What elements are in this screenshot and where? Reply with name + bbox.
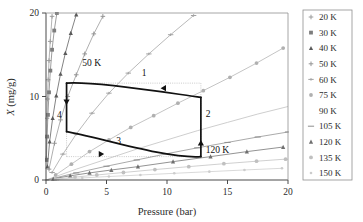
y-axis-tick-label: 0 <box>34 175 39 185</box>
legend-marker-circle-icon <box>309 93 313 97</box>
series-marker <box>281 167 284 170</box>
x-axis-label: Pressure (bar) <box>138 206 197 218</box>
series-marker <box>46 113 50 117</box>
legend-label: 150 K <box>319 168 342 178</box>
legend-label: 135 K <box>319 153 342 163</box>
cycle-step-label: 3 <box>116 136 121 146</box>
series-marker <box>152 114 156 118</box>
chart-root: 1234 0510152001020 50 K120 K 20 K30 K40 … <box>0 0 363 222</box>
legend-label: 105 K <box>319 121 342 131</box>
series-marker <box>255 159 259 163</box>
series-marker <box>47 90 51 94</box>
temperature-annotation: 120 K <box>206 145 230 155</box>
series-marker <box>243 169 246 172</box>
x-axis-tick-label: 10 <box>162 187 172 197</box>
series-marker <box>153 168 157 172</box>
series-marker <box>81 177 84 180</box>
series-marker <box>88 150 92 154</box>
temperature-annotation: 50 K <box>82 58 101 68</box>
series-marker <box>284 157 288 161</box>
series-marker <box>52 29 56 33</box>
legend-label: 60 K <box>319 75 337 85</box>
legend-marker-circle-icon <box>309 156 313 160</box>
series-marker <box>48 69 52 73</box>
legend-label: 40 K <box>319 43 337 53</box>
series-marker <box>129 125 133 129</box>
y-axis-units: (mg/g) <box>5 78 17 110</box>
x-axis-tick-label: 5 <box>104 187 109 197</box>
cycle-step-label: 4 <box>57 110 62 120</box>
x-axis-tick-label: 15 <box>223 187 233 197</box>
y-axis-tick-label: 10 <box>30 92 40 102</box>
legend-item-90-k[interactable]: 90 K <box>319 106 337 116</box>
series-marker <box>201 89 205 93</box>
series-marker <box>95 173 99 177</box>
legend-label: 30 K <box>319 28 337 38</box>
legend-label: 20 K <box>319 12 337 22</box>
legend-marker-square-icon <box>309 31 313 35</box>
series-marker <box>173 172 176 175</box>
series-marker <box>70 162 74 166</box>
series-marker <box>208 170 211 173</box>
series-marker <box>255 61 259 65</box>
series-marker <box>139 174 142 177</box>
cycle-step-label: 2 <box>206 109 211 119</box>
legend-label: 90 K <box>319 106 337 116</box>
series-marker <box>122 171 126 175</box>
cycle-step-label: 1 <box>142 68 147 78</box>
series-marker <box>50 48 54 52</box>
legend-label: 120 K <box>319 137 342 147</box>
x-axis-tick-label: 20 <box>283 187 293 197</box>
y-axis-tick-label: 20 <box>30 8 40 18</box>
legend-label: 50 K <box>319 59 337 69</box>
series-marker <box>228 75 232 79</box>
legend-group: 20 K30 K40 K50 K60 K75 K90 K105 K120 K13… <box>303 10 352 180</box>
series-marker <box>222 162 226 166</box>
series-marker <box>281 46 285 50</box>
legend-marker-dot-icon <box>310 172 313 175</box>
x-axis-tick-label: 0 <box>44 187 49 197</box>
adsorption-isotherm-chart: 1234 0510152001020 50 K120 K 20 K30 K40 … <box>0 0 363 222</box>
legend-label: 75 K <box>319 90 337 100</box>
series-marker <box>187 165 191 169</box>
series-marker <box>176 101 180 105</box>
y-axis-label: X (mg/g) <box>5 78 17 117</box>
series-marker <box>108 175 111 178</box>
